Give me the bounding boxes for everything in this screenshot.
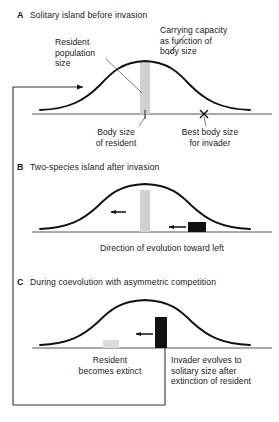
panel-a-annotation-best-body-size-for-invader: Best body size for invader xyxy=(177,127,243,148)
figure-root: A Solitary island before invasion Reside… xyxy=(0,0,279,422)
panel-c-annotation-invader-evolves: Invader evolves to solitary size after e… xyxy=(171,355,275,387)
panel-c-carrying-capacity-curve xyxy=(40,300,250,345)
panel-c-graphic xyxy=(32,300,272,348)
panel-c-title: During coevolution with asymmetric compe… xyxy=(30,277,216,287)
panel-c-annotation-resident-becomes-extinct: Resident becomes extinct xyxy=(62,355,158,376)
panel-c-letter: C xyxy=(17,277,23,287)
panel-a-resident-bar xyxy=(140,62,150,114)
panel-a-annotation-carrying-capacity: Carrying capacity as function of body si… xyxy=(160,25,227,57)
panel-a-leader-invader xyxy=(204,117,206,126)
panel-a-annotation-body-size-of-resident: Body size of resident xyxy=(88,127,144,148)
panel-a-leader-bodysize xyxy=(139,116,146,126)
panel-a-title: Solitary island before invasion xyxy=(30,10,147,20)
panel-b-letter: B xyxy=(17,162,23,172)
panel-c-resident-bar-faded xyxy=(103,340,119,348)
panel-c-invader-bar xyxy=(155,317,167,348)
panel-b-graphic xyxy=(32,184,272,232)
panel-a-annotation-resident-population-size: Resident population size xyxy=(55,37,95,69)
panel-b-invader-bar xyxy=(188,222,206,232)
panel-b-title: Two-species island after invasion xyxy=(30,162,159,172)
panel-b-resident-bar xyxy=(140,190,150,232)
panel-a-letter: A xyxy=(17,10,23,20)
panel-b-annotation-direction-of-evolution: Direction of evolution toward left xyxy=(100,243,224,254)
panel-a-leader-resident xyxy=(106,59,142,93)
